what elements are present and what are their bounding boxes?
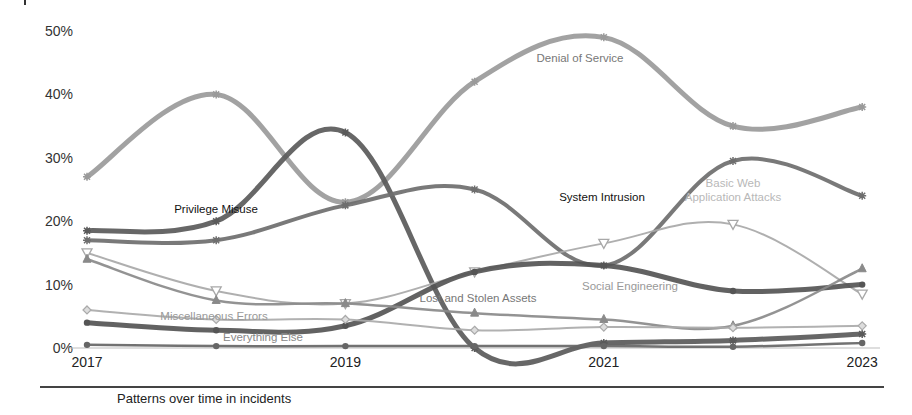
data-point-circle	[471, 343, 477, 349]
line-chart: 0%10%20%30%40%50% Denial of ServicePrivi…	[0, 0, 912, 415]
series-label: System Intrusion	[559, 191, 645, 203]
data-point-diamond	[471, 326, 479, 334]
data-point-star	[729, 122, 737, 130]
data-point-star	[729, 157, 737, 165]
data-point-circle	[601, 343, 607, 349]
data-point-diamond	[600, 323, 608, 331]
data-point-star	[341, 128, 349, 136]
y-tick-label: 30%	[45, 150, 73, 166]
data-point-star	[83, 173, 91, 181]
chart-caption: Patterns over time in incidents	[117, 391, 291, 406]
data-point-star	[729, 336, 737, 344]
data-point-star	[858, 330, 866, 338]
data-point-star	[858, 192, 866, 200]
x-tick-label: 2019	[330, 354, 361, 370]
x-tick-label: 2017	[71, 354, 102, 370]
data-point-diamond	[858, 322, 866, 330]
data-point-star	[471, 186, 479, 194]
data-point-star	[212, 236, 220, 244]
x-tick-label: 2023	[847, 354, 878, 370]
y-tick-label: 10%	[45, 277, 73, 293]
x-axis-ticks: 2017201920212023	[71, 354, 878, 370]
data-point-diamond	[341, 315, 349, 323]
data-point-circle	[859, 340, 865, 346]
y-tick-label: 20%	[45, 213, 73, 229]
y-tick-label: 50%	[45, 23, 73, 39]
data-point-circle	[342, 343, 348, 349]
y-tick-label: 40%	[45, 86, 73, 102]
data-point-circle	[84, 319, 90, 325]
x-tick-label: 2021	[588, 354, 619, 370]
data-point-circle	[730, 288, 736, 294]
data-point-star	[858, 103, 866, 111]
data-point-circle	[471, 269, 477, 275]
data-point-star	[600, 33, 608, 41]
y-axis-ticks: 0%10%20%30%40%50%	[45, 23, 73, 356]
series-label: Application Attacks	[685, 191, 782, 203]
data-point-diamond	[83, 306, 91, 314]
y-tick-label: 0%	[53, 340, 73, 356]
series-label: Miscellaneous Errors	[160, 310, 268, 322]
series-label: Privilege Misuse	[174, 203, 258, 215]
caption-rule	[40, 386, 884, 388]
data-point-star	[212, 90, 220, 98]
data-point-star	[83, 227, 91, 235]
data-point-circle	[859, 281, 865, 287]
data-point-circle	[213, 343, 219, 349]
data-point-circle	[730, 344, 736, 350]
data-point-circle	[601, 262, 607, 268]
data-point-triangle-up	[858, 264, 866, 272]
data-point-star	[212, 217, 220, 225]
data-point-triangle-down	[857, 290, 867, 299]
series-label: Basic Web	[706, 177, 761, 189]
series-label: Everything Else	[223, 331, 303, 343]
data-point-circle	[84, 342, 90, 348]
data-point-star	[341, 201, 349, 209]
series-label: Lost and Stolen Assets	[420, 292, 537, 304]
series-label: Denial of Service	[537, 52, 624, 64]
data-point-star	[83, 236, 91, 244]
data-point-circle	[213, 327, 219, 333]
series-label: Social Engineering	[582, 280, 678, 292]
data-point-star	[471, 78, 479, 86]
data-point-triangle-up	[83, 254, 91, 262]
